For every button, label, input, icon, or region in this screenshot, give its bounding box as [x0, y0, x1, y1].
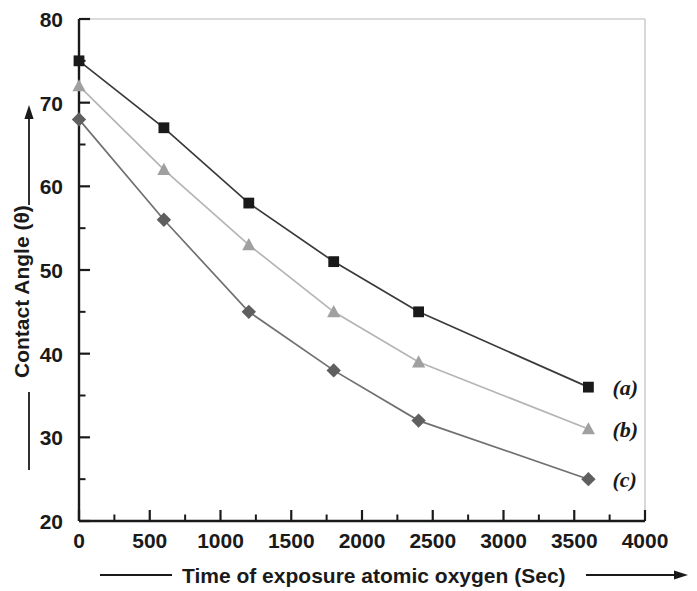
x-tick-label: 500 [132, 529, 167, 552]
y-tick-label: 40 [40, 343, 63, 366]
x-tick-label: 0 [73, 529, 85, 552]
x-axis-major-ticks [79, 510, 645, 521]
y-axis-title-group: Contact Angle (θ) [10, 105, 34, 470]
series-line [79, 119, 588, 479]
x-tick-label: 2000 [339, 529, 386, 552]
y-axis-tick-labels: 20304050607080 [40, 8, 63, 533]
x-tick-label: 3500 [551, 529, 598, 552]
series-lines [79, 61, 588, 479]
marker-square [243, 198, 254, 209]
y-tick-label: 50 [40, 259, 63, 282]
legend-label-a: (a) [612, 375, 638, 400]
marker-square [328, 256, 339, 267]
marker-triangle [72, 79, 85, 91]
marker-diamond [327, 363, 341, 377]
marker-square [74, 55, 85, 66]
series-line [79, 61, 588, 387]
x-axis-title-group: Time of exposure atomic oxygen (Sec) [100, 564, 688, 587]
legend-label-b: (b) [612, 417, 638, 442]
x-axis-title: Time of exposure atomic oxygen (Sec) [182, 564, 566, 587]
y-tick-label: 80 [40, 8, 63, 31]
chart-figure: 20304050607080 0500100015002000250030003… [0, 0, 697, 591]
x-tick-label: 1500 [268, 529, 315, 552]
contact-angle-line-chart: 20304050607080 0500100015002000250030003… [0, 0, 697, 591]
legend-label-c: (c) [612, 467, 636, 492]
y-axis-arrow-head [24, 105, 33, 119]
y-tick-label: 70 [40, 92, 63, 115]
marker-triangle [582, 422, 595, 434]
marker-diamond [411, 413, 425, 427]
y-tick-label: 20 [40, 510, 63, 533]
marker-diamond [581, 472, 595, 486]
marker-square [413, 306, 424, 317]
x-tick-label: 3000 [480, 529, 527, 552]
x-tick-label: 4000 [622, 529, 669, 552]
x-tick-label: 1000 [197, 529, 244, 552]
series-markers [72, 55, 596, 486]
x-tick-label: 2500 [409, 529, 456, 552]
marker-triangle [327, 305, 340, 317]
plot-frame-faint [79, 19, 645, 521]
y-axis-title: Contact Angle (θ) [10, 205, 33, 378]
y-tick-label: 30 [40, 426, 63, 449]
marker-square [159, 122, 170, 133]
x-axis-arrow-head [674, 570, 688, 579]
y-tick-label: 60 [40, 175, 63, 198]
marker-square [583, 382, 594, 393]
marker-triangle [412, 355, 425, 367]
x-axis-tick-labels: 05001000150020002500300035004000 [73, 529, 668, 552]
legend-labels: (a)(b)(c) [612, 375, 638, 492]
